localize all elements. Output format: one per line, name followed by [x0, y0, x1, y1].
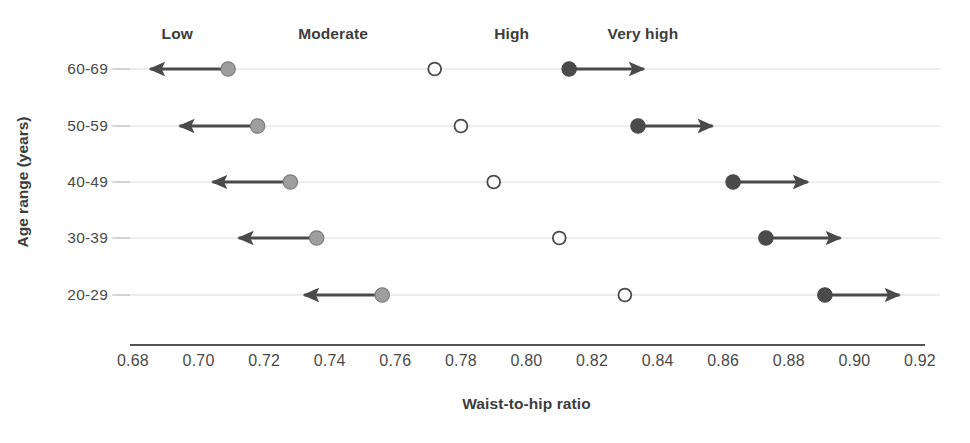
- x-tick-label-0.72: 0.72: [248, 352, 280, 370]
- y-tick-label-30-39: 30-39: [67, 229, 108, 247]
- marker-filled-circle-50-59: [250, 119, 264, 133]
- x-tick-label-0.74: 0.74: [314, 352, 346, 370]
- x-tick-label-0.88: 0.88: [773, 352, 805, 370]
- marker-open-circle-20-29: [618, 289, 631, 302]
- zone-label-low: Low: [162, 25, 193, 43]
- y-tick-label-60-69: 60-69: [67, 60, 108, 78]
- marker-filled-circle-50-59: [631, 119, 645, 133]
- marker-open-circle-60-69: [428, 63, 441, 76]
- y-tick-label-20-29: 20-29: [67, 286, 108, 304]
- zone-label-moderate: Moderate: [298, 25, 368, 43]
- y-axis-title: Age range (years): [14, 117, 32, 248]
- marker-open-circle-30-39: [553, 232, 566, 245]
- marker-filled-circle-40-49: [726, 175, 740, 189]
- chart-plot-area: [0, 0, 970, 443]
- x-tick-label-0.92: 0.92: [904, 352, 936, 370]
- marker-filled-circle-40-49: [283, 175, 297, 189]
- zone-label-high: High: [494, 25, 529, 43]
- x-axis-title: Waist-to-hip ratio: [462, 395, 591, 413]
- marker-filled-circle-60-69: [562, 62, 576, 76]
- x-tick-label-0.78: 0.78: [445, 352, 477, 370]
- x-tick-label-0.68: 0.68: [117, 352, 149, 370]
- marker-filled-circle-60-69: [221, 62, 235, 76]
- chart-container: LowModerateHighVery high 60-6950-5940-49…: [0, 0, 970, 443]
- marker-filled-circle-30-39: [759, 231, 773, 245]
- x-tick-label-0.76: 0.76: [379, 352, 411, 370]
- y-tick-label-40-49: 40-49: [67, 173, 108, 191]
- marker-open-circle-50-59: [455, 120, 468, 133]
- marker-filled-circle-30-39: [309, 231, 323, 245]
- marker-filled-circle-20-29: [375, 288, 389, 302]
- y-tick-marks: [112, 69, 130, 295]
- y-tick-label-50-59: 50-59: [67, 117, 108, 135]
- x-tick-label-0.90: 0.90: [838, 352, 870, 370]
- x-tick-label-0.80: 0.80: [511, 352, 543, 370]
- x-tick-label-0.82: 0.82: [576, 352, 608, 370]
- marker-open-circle-40-49: [487, 176, 500, 189]
- x-tick-label-0.70: 0.70: [183, 352, 215, 370]
- x-tick-label-0.86: 0.86: [707, 352, 739, 370]
- marker-filled-circle-20-29: [818, 288, 832, 302]
- zone-label-very-high: Very high: [608, 25, 679, 43]
- x-tick-label-0.84: 0.84: [642, 352, 674, 370]
